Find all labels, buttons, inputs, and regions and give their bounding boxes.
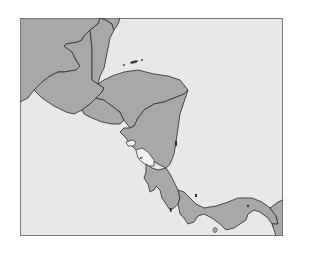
island-guanaja <box>141 59 143 61</box>
pearl-lagoon <box>175 141 177 146</box>
bocas-del-toro <box>195 194 197 197</box>
island-utila <box>123 64 125 66</box>
pearl-islands <box>247 205 250 208</box>
coiba-island <box>213 228 217 233</box>
central-america-map <box>20 18 283 236</box>
map-frame <box>20 18 283 236</box>
ometepe-island <box>140 157 143 159</box>
golfo-dulce <box>170 208 172 212</box>
